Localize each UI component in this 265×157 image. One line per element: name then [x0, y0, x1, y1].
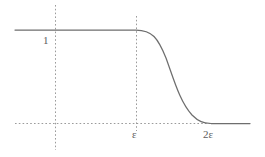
figure-container: 1 ε 2ε: [0, 0, 265, 157]
y-value-one-label: 1: [43, 35, 49, 46]
x-tick-label-two-epsilon: 2ε: [203, 129, 213, 140]
x-tick-label-epsilon: ε: [132, 129, 137, 140]
cutoff-function-curve: [15, 30, 250, 124]
